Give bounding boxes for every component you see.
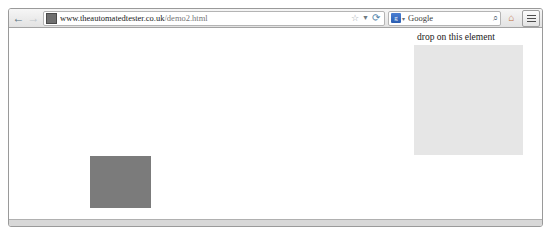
page-bottom-bar [9,219,542,226]
browser-window: ← → www.theautomatedtester.co.uk/demo2.h… [8,8,543,227]
page-viewport: drop on this element [9,28,542,219]
hamburger-icon [527,14,536,23]
drop-target-area[interactable] [414,45,523,155]
search-input[interactable]: Google [408,13,493,23]
search-engine-icon[interactable]: g [391,13,401,23]
url-path: /demo2.html [165,13,208,23]
chevron-down-icon[interactable]: ▾ [402,15,405,22]
drop-target-label: drop on this element [417,32,495,42]
search-icon[interactable]: ⌕ [493,13,498,24]
menu-button[interactable] [522,10,540,27]
draggable-box[interactable] [90,156,151,208]
site-favicon-icon [46,13,57,24]
chevron-down-icon[interactable]: ▼ [362,15,369,22]
bookmark-star-icon[interactable]: ☆ [351,14,359,23]
reload-icon[interactable]: ⟳ [372,13,380,23]
forward-icon[interactable]: → [26,11,41,26]
address-bar-icons: ☆ ▼ ⟳ [351,13,382,23]
browser-toolbar: ← → www.theautomatedtester.co.uk/demo2.h… [9,9,542,28]
back-icon[interactable]: ← [11,11,26,26]
address-bar-url: www.theautomatedtester.co.uk/demo2.html [60,13,351,23]
search-bar[interactable]: g ▾ Google ⌕ [388,11,501,26]
url-host: www.theautomatedtester.co.uk [60,13,165,23]
home-icon[interactable]: ⌂ [504,11,519,26]
address-bar[interactable]: www.theautomatedtester.co.uk/demo2.html … [43,11,385,26]
